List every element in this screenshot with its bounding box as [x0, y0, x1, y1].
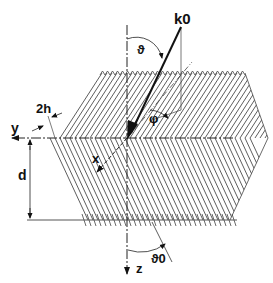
two-h-label: 2h	[36, 102, 51, 115]
k0-label: k0	[174, 11, 191, 26]
lower-grating-layer	[40, 138, 273, 220]
phi-label: φ	[149, 112, 158, 125]
theta-label: ϑ	[137, 43, 145, 56]
theta0-label: ϑ0	[151, 252, 166, 265]
z-axis-label: z	[136, 262, 143, 275]
two-h-extension	[48, 116, 55, 138]
d-label: d	[18, 168, 27, 182]
two-h-arrow-right	[52, 113, 62, 117]
y-axis-label: y	[11, 121, 19, 135]
two-h-arrow-left	[32, 126, 43, 131]
x-axis-label: x	[92, 152, 99, 165]
upper-grating-layer	[40, 73, 273, 138]
